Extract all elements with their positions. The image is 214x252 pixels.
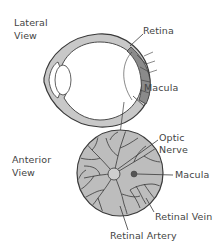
anterior-view-title-line2: View	[12, 167, 35, 179]
retinal-artery-label: Retinal Artery	[110, 230, 177, 242]
macula-lateral-label: Macula	[144, 82, 178, 94]
optic-disc	[108, 168, 120, 180]
retina-leader	[130, 34, 143, 46]
lateral-view-title-line2: View	[14, 30, 37, 42]
lens	[55, 65, 71, 95]
retinal-vein-label: Retinal Vein	[155, 211, 212, 223]
optic-nerve-label-line1: Optic	[159, 132, 185, 144]
macula-dot	[131, 171, 137, 177]
retina-label: Retina	[143, 25, 174, 37]
lateral-eye	[44, 34, 157, 134]
optic-nerve-label-line2: Nerve	[159, 144, 188, 156]
anterior-view-title-line1: Anterior	[12, 154, 51, 166]
lateral-view-title-line1: Lateral	[14, 17, 48, 29]
macula-anterior-label: Macula	[175, 169, 209, 181]
